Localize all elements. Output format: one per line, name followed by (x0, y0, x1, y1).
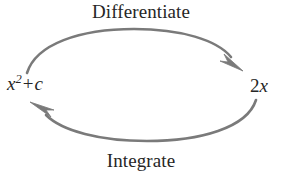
node-derivative: 2x (250, 76, 268, 95)
node-right-variable: x (260, 75, 268, 96)
differentiate-label: Differentiate (0, 2, 282, 21)
node-left-constant: c (34, 73, 42, 94)
node-left-exponent: 2 (15, 72, 21, 86)
differentiate-integrate-cycle-figure: Differentiate Integrate x2+c 2x (0, 0, 282, 177)
node-right-coefficient: 2 (250, 75, 260, 96)
node-antiderivative: x2+c (7, 74, 43, 93)
differentiate-arc-path (27, 29, 231, 73)
node-left-operator: + (22, 73, 35, 94)
integrate-arc-path (46, 100, 256, 141)
integrate-label: Integrate (0, 151, 282, 170)
integrate-arrowhead (30, 102, 54, 117)
